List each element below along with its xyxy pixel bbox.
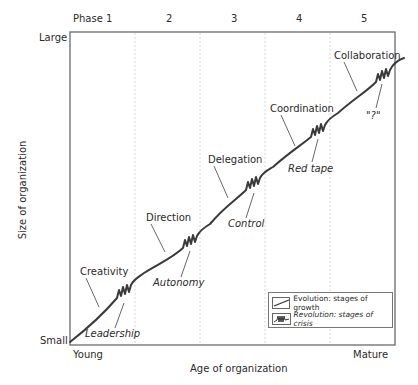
x-axis-min-label: Young — [73, 350, 103, 360]
legend-label-revolution: Revolution: stages of crisis — [294, 310, 392, 328]
crisis-label-control: Control — [228, 219, 264, 229]
crisis-label-leadership: Leadership — [85, 329, 140, 339]
y-axis-min-label: Small — [40, 336, 68, 346]
revolution-zigzag-icon — [272, 313, 291, 325]
stage-label-direction: Direction — [146, 213, 191, 223]
evolution-line-icon — [272, 297, 290, 309]
phase-label-4: 4 — [296, 14, 302, 24]
stage-label-delegation: Delegation — [208, 155, 262, 165]
stage-label-collaboration: Collaboration — [334, 51, 401, 61]
phase-label-3: 3 — [231, 14, 237, 24]
stage-label-coordination: Coordination — [270, 104, 334, 114]
y-axis-title: Size of organization — [17, 141, 28, 240]
stage-label-creativity: Creativity — [80, 267, 128, 277]
phase-label-2: 2 — [166, 14, 172, 24]
legend: Evolution: stages of growth Revolution: … — [268, 292, 393, 328]
x-axis-title: Age of organization — [190, 364, 288, 374]
crisis-label-red-tape: Red tape — [288, 164, 333, 174]
y-axis-max-label: Large — [39, 33, 67, 43]
legend-item-revolution: Revolution: stages of crisis — [272, 311, 392, 326]
x-axis-max-label: Mature — [353, 350, 388, 360]
phase-label-5: 5 — [361, 14, 367, 24]
phase-label-1: Phase 1 — [73, 14, 112, 24]
crisis-label-autonomy: Autonomy — [153, 278, 204, 288]
legend-item-evolution: Evolution: stages of growth — [272, 295, 392, 310]
crisis-label-unknown: "?" — [366, 111, 381, 121]
